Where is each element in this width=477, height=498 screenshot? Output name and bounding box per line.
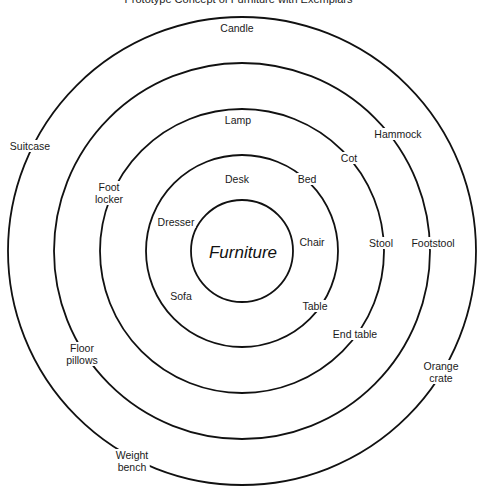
- exemplar-label-desk: Desk: [224, 173, 250, 185]
- exemplar-label-bed: Bed: [297, 173, 318, 185]
- exemplar-label-weight-bench: Weightbench: [115, 449, 150, 473]
- exemplar-label-text: Cot: [341, 152, 357, 164]
- exemplar-label-text: Bed: [298, 173, 317, 185]
- exemplar-label-text: Stool: [369, 237, 393, 249]
- exemplar-label-text: End table: [333, 328, 377, 340]
- exemplar-label-text: Footstool: [411, 237, 454, 249]
- exemplar-label-text: pillows: [66, 354, 98, 366]
- exemplar-label-floor-pillows: Floorpillows: [65, 342, 99, 366]
- exemplar-label-candle: Candle: [219, 22, 254, 34]
- exemplar-label-text: Chair: [299, 236, 324, 248]
- exemplar-label-end-table: End table: [332, 328, 378, 340]
- exemplar-label-text: Hammock: [374, 128, 421, 140]
- exemplar-label-text: Sofa: [170, 290, 192, 302]
- exemplar-label-sofa: Sofa: [169, 290, 193, 302]
- exemplar-label-footstool: Footstool: [410, 237, 455, 249]
- exemplar-label-text: Orange: [423, 360, 458, 372]
- exemplar-label-text: Dresser: [158, 216, 195, 228]
- exemplar-label-text: Weight: [116, 449, 149, 461]
- exemplar-label-hammock: Hammock: [373, 128, 422, 140]
- exemplar-label-foot-locker: Footlocker: [94, 181, 124, 205]
- exemplar-label-text: locker: [95, 193, 123, 205]
- exemplar-label-stool: Stool: [368, 237, 394, 249]
- exemplar-label-orange-crate: Orangecrate: [422, 360, 459, 384]
- exemplar-label-text: Table: [302, 300, 327, 312]
- exemplar-label-lamp: Lamp: [224, 114, 252, 126]
- exemplar-label-table: Table: [301, 300, 328, 312]
- exemplar-label-text: bench: [116, 461, 149, 473]
- exemplar-label-suitcase: Suitcase: [9, 140, 51, 152]
- exemplar-label-text: Suitcase: [10, 140, 50, 152]
- exemplar-label-text: crate: [423, 372, 458, 384]
- exemplar-label-text: Foot: [95, 181, 123, 193]
- exemplar-label-cot: Cot: [340, 152, 358, 164]
- exemplar-label-text: Candle: [220, 22, 253, 34]
- exemplar-label-chair: Chair: [298, 236, 325, 248]
- exemplar-label-text: Lamp: [225, 114, 251, 126]
- exemplar-label-dresser: Dresser: [157, 216, 196, 228]
- exemplar-label-text: Desk: [225, 173, 249, 185]
- exemplar-label-text: Floor: [66, 342, 98, 354]
- center-concept-label: Furniture: [209, 243, 277, 263]
